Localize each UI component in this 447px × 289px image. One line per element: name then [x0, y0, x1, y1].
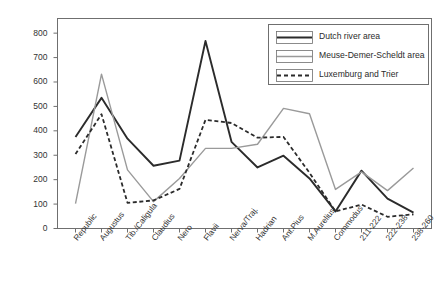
y-tick-label: 100 — [22, 199, 48, 209]
legend-label-luxemburg-and-trier: Luxemburg and Trier — [319, 69, 398, 79]
y-tick-marks — [54, 33, 58, 228]
y-tick-label: 200 — [22, 174, 48, 184]
y-tick-label: 600 — [22, 76, 48, 86]
plot-canvas — [0, 0, 447, 289]
y-tick-label: 500 — [22, 101, 48, 111]
y-tick-label: 400 — [22, 125, 48, 135]
y-tick-label: 800 — [22, 28, 48, 38]
y-tick-label: 300 — [22, 150, 48, 160]
coin-finds-line-chart: Number of coins 010020030040050060070080… — [0, 0, 447, 289]
legend-label-meuse-demer-scheldt-area: Meuse-Demer-Scheldt area — [319, 50, 425, 60]
y-tick-label: 0 — [22, 223, 48, 233]
legend-label-dutch-river-area: Dutch river area — [319, 31, 380, 41]
y-tick-label: 700 — [22, 52, 48, 62]
